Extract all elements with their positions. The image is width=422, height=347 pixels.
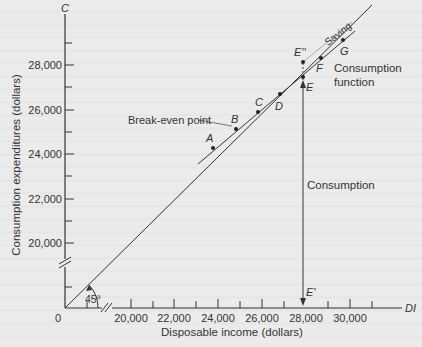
x-axis-title: Disposable income (dollars): [161, 326, 303, 338]
y-tick-label: 26,000: [28, 104, 62, 116]
y-tick-label: 20,000: [28, 237, 62, 249]
consumption-function-line: [198, 31, 355, 164]
origin-label: 0: [55, 312, 61, 324]
consumption-function-label-line1: Consumption: [334, 62, 402, 74]
x-tick-label: 20,000: [114, 312, 148, 324]
label-e-prime: E': [306, 286, 316, 298]
label-b: B: [231, 113, 238, 125]
label-g: G: [340, 45, 349, 57]
data-points: [211, 38, 345, 150]
point-d: [278, 92, 282, 96]
consumption-function-label-line2: function: [334, 76, 374, 88]
point-e-double-prime: [301, 60, 305, 64]
x-axis-break: [101, 303, 112, 313]
point-a: [211, 146, 215, 150]
x-tick-label: 28,000: [289, 312, 323, 324]
point-labels: A B C D E F G E'' E': [205, 45, 349, 298]
point-e: [301, 75, 305, 79]
x-tick-labels: 20,000 22,000 24,000 26,000 28,000 30,00…: [114, 312, 367, 324]
consumption-function-chart: 28,000 26,000 24,000 22,000 20,000 20,00…: [0, 0, 422, 347]
x-tick-label: 22,000: [157, 312, 191, 324]
y-tick-label: 24,000: [28, 148, 62, 160]
x-tick-label: 26,000: [245, 312, 279, 324]
label-a: A: [205, 132, 213, 144]
x-axis-ticks: [87, 299, 372, 308]
label-f: F: [316, 62, 324, 74]
y-axis-symbol: C: [61, 2, 69, 14]
point-b: [234, 127, 238, 131]
label-e-double-prime: E'': [294, 46, 306, 58]
label-c: C: [255, 96, 263, 108]
y-axis-title: Consumption expenditures (dollars): [10, 74, 22, 256]
arrow-down-icon: [300, 298, 306, 306]
x-tick-label: 24,000: [201, 312, 235, 324]
angle-label: 45°: [85, 293, 101, 305]
consumption-label: Consumption: [307, 179, 375, 191]
y-tick-labels: 28,000 26,000 24,000 22,000 20,000: [28, 59, 62, 249]
label-d: D: [275, 100, 283, 112]
y-axis-ticks: [65, 43, 74, 287]
point-g: [341, 38, 345, 42]
x-axis-symbol: DI: [405, 302, 416, 314]
y-tick-label: 22,000: [28, 193, 62, 205]
saving-label: Saving: [322, 20, 353, 47]
x-tick-label: 30,000: [333, 312, 367, 324]
break-even-label: Break-even point: [128, 114, 211, 126]
point-c: [256, 110, 260, 114]
label-e: E: [306, 81, 314, 93]
y-tick-label: 28,000: [28, 59, 62, 71]
point-f: [319, 56, 323, 60]
forty-five-degree-line: [65, 5, 372, 308]
